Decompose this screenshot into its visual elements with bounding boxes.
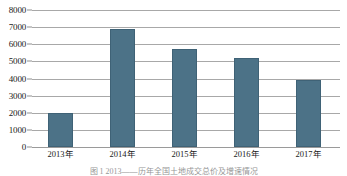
x-axis-tick-label-2014: 2014年 [110,149,136,159]
figure-caption: 图 1 2013——历年全国土地成交总价及增速情况 [0,167,347,176]
y-axis-tick-label: 5000 [9,57,26,66]
x-axis-tick-label-2013: 2013年 [48,149,74,159]
y-axis-tick-label: 1000 [9,125,26,134]
y-axis-tick-label: 0 [22,143,26,152]
bar-2017 [296,80,321,147]
y-axis: 8000 7000 6000 5000 4000 3000 2000 1000 … [0,0,32,157]
bars-layer [32,10,340,147]
y-axis-tick-label: 8000 [9,6,26,15]
bar-2016 [234,58,259,147]
x-axis: 2013年 2014年 2015年 2016年 2017年 [32,149,340,163]
y-axis-tick-label: 3000 [9,91,26,100]
y-axis-tick-label: 7000 [9,23,26,32]
x-axis-tick-label-2015: 2015年 [172,149,198,159]
bar-2013 [48,113,73,147]
x-axis-tick-label-2016: 2016年 [234,149,260,159]
y-axis-tick-label: 6000 [9,40,26,49]
x-axis-tick-label-2017: 2017年 [296,149,322,159]
bar-2014 [110,29,135,147]
y-axis-tick-label: 4000 [9,74,26,83]
plot-area [32,10,340,147]
bar-chart-figure: 8000 7000 6000 5000 4000 3000 2000 1000 … [0,0,347,176]
bar-2015 [172,49,197,147]
y-axis-tick-label: 2000 [9,108,26,117]
gridline-baseline-0 [32,147,340,148]
